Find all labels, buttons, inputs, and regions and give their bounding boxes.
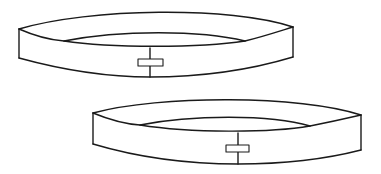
band-bottom-outer-rim <box>93 100 361 115</box>
band-top-outer-rim <box>19 12 293 29</box>
headbands-drawing <box>0 0 381 174</box>
illustration <box>0 0 381 174</box>
band-bottom-front-upper-edge <box>93 113 361 131</box>
band-bottom-inner-rim <box>140 117 310 126</box>
band-bottom <box>93 100 361 164</box>
band-top-front-upper-edge <box>19 27 293 46</box>
band-top-tape <box>138 59 163 66</box>
band-bottom-tape <box>226 145 249 152</box>
band-top <box>19 12 293 77</box>
band-top-inner-rim <box>64 33 245 41</box>
